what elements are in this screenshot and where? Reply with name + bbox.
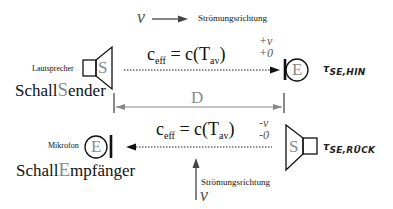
- backward-rhs: c(T: [194, 119, 219, 139]
- forward-signal-arrow: [124, 67, 280, 74]
- backward-lhs-sub: eff: [164, 130, 175, 141]
- sender-device-label: Lautsprecher: [32, 64, 74, 73]
- sender-name-prefix: Schall: [15, 81, 58, 100]
- backward-rhs-close: ): [229, 119, 235, 139]
- forward-lhs: c: [147, 44, 155, 64]
- forward-eq: =: [170, 44, 180, 64]
- receiver-name-suffix: mpfänger: [70, 161, 135, 180]
- receiver-name: SchallEmpfänger: [16, 159, 135, 181]
- sender-name-highlight: S: [58, 79, 69, 100]
- tau-backward-sub: SE,RÜCK: [329, 145, 375, 155]
- sender-glyph: S: [98, 58, 107, 78]
- sender-name: SchallSender: [15, 79, 106, 101]
- forward-rhs: c(T: [185, 44, 210, 64]
- forward-sign-bottom: +0: [259, 48, 273, 59]
- backward-sign-bottom: -0: [259, 130, 269, 141]
- backward-lhs: c: [156, 119, 164, 139]
- tau-backward: τSE,RÜCK: [323, 141, 375, 155]
- distance-label: D: [191, 88, 203, 108]
- receiver-name-highlight: E: [59, 159, 71, 180]
- receiver-glyph-top: E: [292, 60, 302, 80]
- backward-signal-arrow: [126, 144, 272, 151]
- bottom-flow-velocity-symbol: v: [200, 185, 208, 206]
- sender-glyph-bottom: S: [289, 137, 298, 157]
- top-flow-arrow: [152, 16, 188, 23]
- receiver-device-label: Mikrofon: [48, 141, 79, 150]
- top-flow-velocity-symbol: v: [137, 7, 145, 28]
- tau-forward-sub: SE,HIN: [329, 67, 365, 77]
- backward-formula: ceff = c(Tav): [156, 119, 235, 141]
- bottom-flow-label: Strömungsrichtung: [201, 177, 270, 187]
- sender-name-suffix: ender: [68, 81, 106, 100]
- bottom-flow-arrow: [193, 158, 200, 200]
- forward-rhs-sub: av: [210, 55, 219, 66]
- backward-rhs-sub: av: [219, 130, 228, 141]
- backward-eq: =: [179, 119, 189, 139]
- forward-formula: ceff = c(Tav): [147, 44, 226, 66]
- top-flow-label: Strömungsrichtung: [198, 13, 267, 23]
- receiver-name-prefix: Schall: [16, 161, 59, 180]
- forward-lhs-sub: eff: [155, 55, 166, 66]
- tau-forward: τSE,HIN: [323, 63, 366, 77]
- receiver-glyph-bottom: E: [91, 137, 101, 157]
- forward-rhs-close: ): [220, 44, 226, 64]
